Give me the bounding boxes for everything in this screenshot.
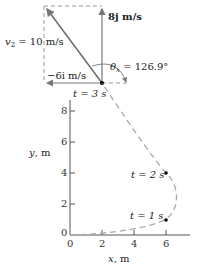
vx-label: −6i m/s bbox=[47, 70, 86, 81]
svg-text:8: 8 bbox=[61, 105, 67, 116]
svg-text:2: 2 bbox=[61, 198, 67, 209]
trajectory-graph: 8 6 4 2 0 0 2 4 6 y, m x, m t = 1 s t = … bbox=[28, 83, 190, 264]
t2-label: t = 2 s bbox=[131, 169, 164, 180]
svg-text:4: 4 bbox=[61, 167, 67, 178]
y-ticks: 8 6 4 2 0 bbox=[61, 105, 75, 238]
point-t1 bbox=[164, 218, 168, 222]
svg-text:4: 4 bbox=[131, 238, 137, 249]
svg-text:6: 6 bbox=[61, 136, 67, 147]
velocity-vector-diagram: v2 = 10 m/s 8j m/s −6i m/s θx = 126.9° t… bbox=[5, 6, 168, 99]
svg-text:6: 6 bbox=[163, 238, 169, 249]
t1-label: t = 1 s bbox=[130, 210, 163, 221]
svg-text:2: 2 bbox=[99, 238, 105, 249]
v2-label: v2 = 10 m/s bbox=[5, 36, 64, 49]
y-axis-label: y, m bbox=[28, 147, 51, 158]
svg-text:0: 0 bbox=[67, 238, 73, 249]
t3-label: t = 3 s bbox=[73, 88, 106, 99]
theta-label: θx = 126.9° bbox=[110, 61, 168, 74]
trajectory-diagram: v2 = 10 m/s 8j m/s −6i m/s θx = 126.9° t… bbox=[0, 0, 199, 265]
vy-label: 8j m/s bbox=[108, 11, 142, 22]
point-t2 bbox=[164, 171, 168, 175]
x-axis-label: x, m bbox=[108, 253, 130, 264]
x-ticks: 0 2 4 6 bbox=[67, 230, 169, 249]
svg-text:0: 0 bbox=[61, 227, 67, 238]
